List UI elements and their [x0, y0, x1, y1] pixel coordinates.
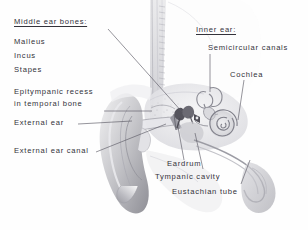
label-malleus: Malleus	[14, 38, 45, 46]
label-cochlea: Cochlea	[230, 71, 263, 79]
label-epitympanic-recess-line1: Epitympanic recess	[14, 88, 93, 96]
label-external-ear-canal: External ear canal	[14, 147, 89, 155]
ear-anatomy-figure: Middle ear bones: Malleus Incus Stapes E…	[0, 0, 308, 230]
label-eardrum: Eardrum	[167, 160, 201, 168]
label-semicircular-canals: Semicircular canals	[208, 44, 288, 52]
label-middle-ear-bones-heading: Middle ear bones:	[14, 18, 87, 26]
label-incus: Incus	[14, 52, 36, 60]
ear-anatomy-illustration	[0, 0, 308, 230]
label-epitympanic-recess-line2: in temporal bone	[14, 100, 83, 108]
label-tympanic-cavity: Tympanic cavity	[155, 173, 220, 181]
label-external-ear: External ear	[14, 119, 64, 127]
label-eustachian-tube: Eustachian tube	[172, 188, 238, 196]
label-stapes: Stapes	[14, 66, 42, 74]
label-inner-ear-heading: Inner ear:	[196, 26, 236, 34]
